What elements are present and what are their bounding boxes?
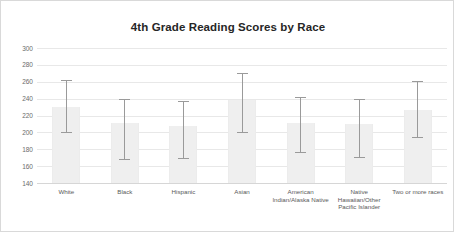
error-bar-line	[359, 99, 360, 157]
error-bar-cap-lower	[119, 159, 130, 160]
y-axis-tick-label: 180	[7, 146, 33, 153]
error-bar-cap-lower	[237, 132, 248, 133]
chart-title: 4th Grade Reading Scores by Race	[1, 21, 454, 33]
bar-series	[37, 48, 447, 183]
x-axis-tick-label: Two or more races	[388, 185, 447, 196]
chart-container: 4th Grade Reading Scores by Race 3002802…	[0, 0, 454, 232]
error-bar-line	[417, 81, 418, 137]
x-axis-tick-label: Native Hawaiian/Other Pacific Islander	[330, 185, 389, 211]
error-bar-cap-lower	[178, 158, 189, 159]
error-bar-line	[183, 101, 184, 158]
error-bar-cap-lower	[61, 132, 72, 133]
error-bar-cap-upper	[354, 99, 365, 100]
bar-slot	[37, 48, 96, 183]
bar-slot	[388, 48, 447, 183]
error-bar-cap-upper	[295, 97, 306, 98]
y-axis: 300280260240220200180160140	[1, 48, 33, 183]
error-bar-cap-lower	[295, 152, 306, 153]
error-bar-cap-upper	[119, 99, 130, 100]
error-bar-cap-upper	[61, 80, 72, 81]
x-axis-line	[37, 183, 447, 184]
y-axis-tick-label: 240	[7, 95, 33, 102]
x-axis-tick-label: Asian	[213, 185, 272, 196]
x-axis-tick-label: White	[37, 185, 96, 196]
error-bar-line	[242, 73, 243, 131]
error-bar-cap-lower	[354, 157, 365, 158]
y-axis-tick-label: 300	[7, 45, 33, 52]
error-bar-cap-lower	[412, 137, 423, 138]
x-axis-tick-label: Hispanic	[154, 185, 213, 196]
error-bar-line	[66, 80, 67, 132]
x-axis-labels: WhiteBlackHispanicAsianAmerican Indian/A…	[37, 185, 447, 231]
y-axis-tick-label: 280	[7, 61, 33, 68]
plot-area	[37, 48, 447, 183]
error-bar-cap-upper	[412, 81, 423, 82]
bar-slot	[154, 48, 213, 183]
bar-slot	[271, 48, 330, 183]
x-axis-tick-label: Black	[96, 185, 155, 196]
y-axis-tick-label: 200	[7, 129, 33, 136]
y-axis-tick-label: 140	[7, 180, 33, 187]
bar-slot	[213, 48, 272, 183]
y-axis-tick-label: 220	[7, 112, 33, 119]
y-axis-tick-label: 160	[7, 163, 33, 170]
bar-slot	[330, 48, 389, 183]
x-axis-tick-label: American Indian/Alaska Native	[271, 185, 330, 203]
error-bar-cap-upper	[178, 101, 189, 102]
y-axis-tick-label: 260	[7, 78, 33, 85]
error-bar-line	[124, 99, 125, 160]
error-bar-line	[300, 97, 301, 152]
bar-slot	[96, 48, 155, 183]
error-bar-cap-upper	[237, 73, 248, 74]
